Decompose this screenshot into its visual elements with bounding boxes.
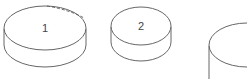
disc-1-label: 1 bbox=[42, 22, 48, 34]
disc-2 bbox=[111, 7, 171, 61]
disc-2-label: 2 bbox=[138, 20, 144, 32]
discs-diagram: 1 2 bbox=[0, 0, 247, 79]
disc-3 bbox=[209, 23, 247, 79]
disc-1 bbox=[4, 6, 86, 67]
